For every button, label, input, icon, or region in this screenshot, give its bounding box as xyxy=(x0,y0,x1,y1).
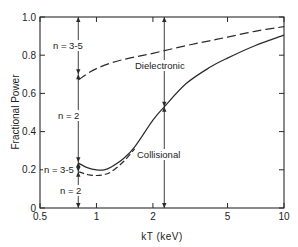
chart-svg: 0.512510 00.20.40.60.81.0 n = 3-5n = 2n … xyxy=(0,0,298,247)
x-axis-label: kT (keV) xyxy=(141,231,183,242)
y-tick-label: 1.0 xyxy=(22,12,36,23)
x-tick-label: 5 xyxy=(225,211,231,222)
dielectronic-dashed-curve xyxy=(78,27,284,80)
arrowhead-icon xyxy=(76,17,80,22)
annotation-label: Dielectronic xyxy=(135,60,185,71)
arrowhead-icon xyxy=(76,167,80,172)
arrowhead-icon xyxy=(76,157,80,162)
arrowhead-icon xyxy=(162,203,166,208)
arrowhead-icon xyxy=(76,203,80,208)
annotation-label: n = 3-5 xyxy=(44,164,74,175)
annotation-label: n = 3-5 xyxy=(53,40,83,51)
annotation-label: n = 2 xyxy=(60,185,81,196)
x-tick-label: 10 xyxy=(278,211,290,222)
annotation-label: n = 2 xyxy=(58,110,79,121)
y-tick-label: 0.8 xyxy=(22,50,36,61)
y-tick-label: 0.4 xyxy=(22,126,36,137)
collisional-n2-dashed-curve xyxy=(78,149,134,176)
arrowhead-icon xyxy=(76,74,80,79)
x-tick-label: 1 xyxy=(94,211,100,222)
annotation-arrows xyxy=(76,17,166,208)
y-axis-label: Fractional Power xyxy=(10,74,21,150)
annotation-label: Collisional xyxy=(137,149,180,160)
arrowhead-icon xyxy=(76,162,80,167)
y-tick-label: 0.6 xyxy=(22,88,36,99)
arrowhead-icon xyxy=(76,69,80,74)
y-tick-label: 0 xyxy=(30,203,36,214)
arrowhead-icon xyxy=(162,17,166,22)
x-tick-label: 2 xyxy=(150,211,156,222)
y-tick-label: 0.2 xyxy=(22,164,36,175)
